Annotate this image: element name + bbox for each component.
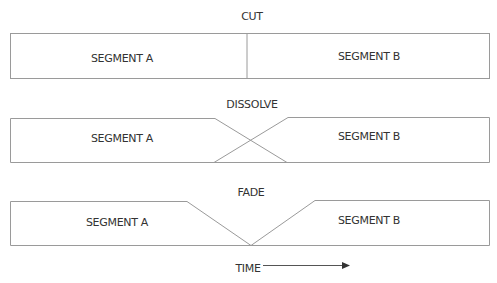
fade-in-slope: [251, 201, 315, 246]
transitions-diagram: CUT SEGMENT A SEGMENT B DISSOLVE SEGMENT…: [0, 0, 497, 283]
fade-segment-a-label: SEGMENT A: [86, 216, 149, 229]
fade-title: FADE: [237, 186, 264, 199]
cut-title: CUT: [241, 10, 263, 23]
cut-frame: [11, 34, 490, 79]
dissolve-segment-a-label: SEGMENT A: [91, 132, 154, 145]
fade-out-slope: [187, 202, 251, 246]
time-label: TIME: [234, 262, 261, 275]
fade-segment-b-label: SEGMENT B: [338, 214, 400, 227]
right-arrow-icon: [342, 262, 350, 269]
dissolve-title: DISSOLVE: [226, 98, 278, 111]
fade-frame: [11, 201, 490, 246]
dissolve-segment-b-label: SEGMENT B: [338, 130, 400, 143]
cut-segment-a-label: SEGMENT A: [91, 52, 154, 65]
cut-segment-b-label: SEGMENT B: [338, 50, 400, 63]
